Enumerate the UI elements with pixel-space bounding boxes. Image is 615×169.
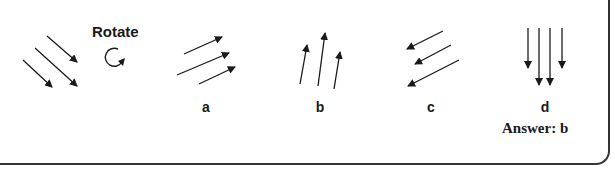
arrow xyxy=(334,52,340,89)
answer-text: Answer: b xyxy=(502,120,568,137)
diagram-frame: Rotate a b c d Answer: b xyxy=(0,0,615,169)
arrow xyxy=(35,48,77,86)
arrow xyxy=(23,60,52,87)
option-d-arrows xyxy=(528,28,562,85)
arrow xyxy=(184,37,222,54)
arrow xyxy=(177,53,229,75)
clockwise-rotate-icon xyxy=(105,48,125,66)
arrow xyxy=(47,36,77,62)
original-arrows xyxy=(23,36,77,87)
frame-border-bottom xyxy=(0,163,596,165)
option-b-arrows xyxy=(300,33,340,89)
option-d-label: d xyxy=(535,99,555,115)
arrow xyxy=(199,67,235,84)
frame-border-right xyxy=(608,0,610,150)
rotate-label: Rotate xyxy=(92,23,139,40)
arrow xyxy=(415,45,451,64)
arrow xyxy=(318,33,325,86)
option-b-label: b xyxy=(310,99,330,115)
arrow xyxy=(300,45,307,84)
option-c-label: c xyxy=(421,99,441,115)
option-a-arrows xyxy=(177,37,235,84)
arrow xyxy=(407,31,443,49)
option-c-arrows xyxy=(407,31,459,86)
option-a-label: a xyxy=(196,99,216,115)
